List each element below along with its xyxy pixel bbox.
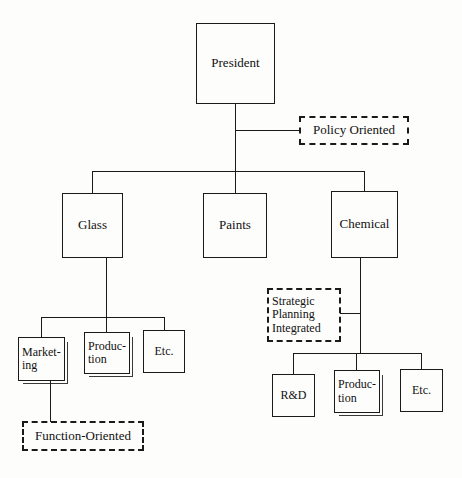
edge-drop-chemical-production [356,353,357,370]
edge-marketing-to-function [50,381,51,422]
edge-chemical-bus [293,353,421,354]
node-paints: Paints [203,193,267,258]
edge-division-bus [92,171,365,172]
node-president-label: President [209,56,261,71]
edge-glass-stem [106,258,107,317]
node-policy-oriented-label: Policy Oriented [311,123,397,138]
node-glass-label: Glass [76,218,109,233]
edge-drop-glass [92,171,93,193]
edge-chemical-stem [360,258,361,353]
node-strategic-planning-label: Strategic Planning Integrated [269,295,323,335]
node-glass: Glass [62,193,123,258]
node-paints-label: Paints [217,218,253,233]
node-function-oriented: Function-Oriented [22,421,144,451]
node-rnd: R&D [272,374,315,417]
node-chemical-production: Produc- tion [334,370,380,413]
org-chart-diagram: President Policy Oriented Glass Paints C… [0,0,462,478]
node-glass-etc: Etc. [143,330,185,373]
node-glass-production-label: Produc- tion [85,340,128,367]
edge-drop-chemical-etc [421,353,422,369]
node-chemical-etc-label: Etc. [410,384,433,397]
node-glass-etc-label: Etc. [153,345,176,358]
node-chemical: Chemical [331,191,398,258]
edge-drop-chemical [364,171,365,191]
node-chemical-production-label: Produc- tion [335,378,378,405]
edge-president-to-policy [235,130,300,131]
edge-drop-glass-production [106,317,107,332]
node-strategic-planning: Strategic Planning Integrated [267,288,341,342]
edge-drop-paints [235,171,236,193]
edge-glass-bus [41,317,164,318]
node-president: President [196,23,275,104]
edge-chemical-to-strategic [340,313,361,314]
edge-drop-marketing [41,317,42,337]
edge-drop-rnd [293,353,294,374]
node-glass-production: Produc- tion [84,332,130,374]
edge-president-stem [235,104,236,171]
node-policy-oriented: Policy Oriented [299,116,409,145]
node-marketing-label: Market- ing [19,346,63,373]
node-function-oriented-label: Function-Oriented [33,429,133,444]
node-chemical-etc: Etc. [400,369,443,412]
node-rnd-label: R&D [278,389,308,402]
edge-drop-glass-etc [164,317,165,330]
node-chemical-label: Chemical [338,217,392,232]
node-marketing: Market- ing [18,337,65,381]
